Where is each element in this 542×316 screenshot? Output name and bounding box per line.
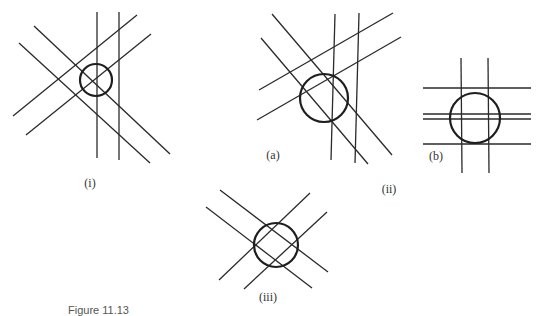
panel-ii bbox=[257, 13, 401, 164]
panel-label-b: (b) bbox=[429, 149, 443, 164]
panel-label-iii: (iii) bbox=[259, 290, 277, 305]
line bbox=[26, 34, 151, 135]
panel-label-i: (i) bbox=[84, 176, 95, 191]
line bbox=[34, 26, 170, 154]
line bbox=[488, 58, 489, 173]
line bbox=[355, 13, 359, 163]
figure-caption: Figure 11.13 bbox=[68, 304, 129, 316]
line bbox=[461, 58, 462, 173]
panel-label-ii: (ii) bbox=[382, 182, 397, 197]
circle bbox=[450, 93, 500, 143]
panel-i bbox=[13, 12, 170, 163]
line bbox=[261, 38, 368, 164]
panel-iii bbox=[206, 190, 328, 289]
circle bbox=[80, 64, 112, 96]
panel-label-a: (a) bbox=[266, 148, 279, 163]
line bbox=[19, 43, 150, 163]
line bbox=[244, 212, 327, 289]
